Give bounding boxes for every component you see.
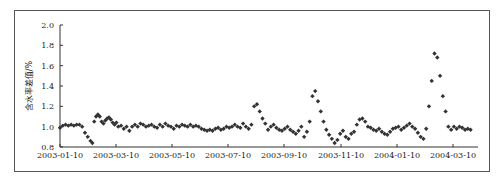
x-tick-label: 2004-03-10 bbox=[430, 151, 476, 160]
data-point bbox=[427, 104, 431, 108]
data-point bbox=[260, 116, 264, 120]
data-point bbox=[321, 119, 325, 123]
x-tick-label: 2003-01-10 bbox=[37, 151, 83, 160]
data-point bbox=[302, 135, 306, 139]
data-point bbox=[258, 109, 262, 113]
y-tick-label: 1.6 bbox=[41, 62, 54, 71]
data-point bbox=[249, 122, 253, 126]
x-tick-label: 2003-11-10 bbox=[318, 151, 364, 160]
y-tick-label: 1.2 bbox=[41, 102, 54, 111]
y-tick-label: 2.0 bbox=[41, 21, 54, 30]
data-point bbox=[296, 129, 300, 133]
data-point bbox=[313, 89, 317, 93]
chart: 2.01.81.61.41.21.00.82003-01-102003-03-1… bbox=[0, 0, 496, 177]
data-point bbox=[263, 121, 267, 125]
data-point bbox=[443, 109, 447, 113]
x-tick-label: 2003-07-10 bbox=[205, 151, 251, 160]
data-point bbox=[330, 137, 334, 141]
data-point bbox=[83, 131, 87, 135]
data-points bbox=[58, 51, 473, 145]
x-tick-label: 2004-01-10 bbox=[374, 151, 420, 160]
y-tick-label: 1.8 bbox=[41, 41, 54, 50]
data-point bbox=[299, 124, 303, 128]
data-point bbox=[324, 128, 328, 132]
data-point bbox=[449, 128, 453, 132]
data-point bbox=[446, 124, 450, 128]
data-point bbox=[424, 127, 428, 131]
x-tick-label: 2003-09-10 bbox=[261, 151, 307, 160]
data-point bbox=[438, 74, 442, 78]
data-point bbox=[266, 128, 270, 132]
data-point bbox=[441, 94, 445, 98]
data-point bbox=[416, 131, 420, 135]
data-point bbox=[338, 132, 342, 136]
x-tick-label: 2003-05-10 bbox=[149, 151, 195, 160]
data-point bbox=[430, 79, 434, 83]
data-point bbox=[127, 129, 131, 133]
data-point bbox=[307, 119, 311, 123]
data-point bbox=[316, 99, 320, 103]
y-axis-label: 含水率差值/% bbox=[24, 60, 34, 111]
y-tick-label: 1.4 bbox=[41, 82, 54, 91]
data-point bbox=[332, 141, 336, 145]
y-tick-label: 1.0 bbox=[41, 123, 54, 132]
data-point bbox=[388, 130, 392, 134]
data-point bbox=[341, 129, 345, 133]
axes: 2.01.81.61.41.21.00.82003-01-102003-03-1… bbox=[37, 21, 478, 160]
data-point bbox=[355, 122, 359, 126]
data-point bbox=[363, 119, 367, 123]
data-point bbox=[432, 51, 436, 55]
data-point bbox=[92, 119, 96, 123]
data-point bbox=[305, 130, 309, 134]
data-point bbox=[319, 109, 323, 113]
data-point bbox=[310, 94, 314, 98]
data-point bbox=[327, 133, 331, 137]
data-point bbox=[335, 138, 339, 142]
data-point bbox=[435, 55, 439, 59]
data-point bbox=[86, 135, 90, 139]
x-tick-label: 2003-03-10 bbox=[93, 151, 139, 160]
data-point bbox=[241, 121, 245, 125]
